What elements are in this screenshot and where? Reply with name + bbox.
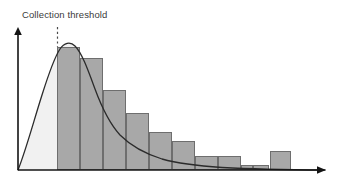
y-axis-arrowhead-icon	[14, 27, 22, 35]
bar	[104, 91, 126, 170]
chart-canvas	[0, 0, 340, 187]
x-axis-arrowhead-icon	[317, 166, 326, 174]
bar	[81, 59, 103, 170]
histogram-bars	[58, 48, 291, 170]
chart-figure: Collection threshold	[0, 0, 340, 187]
bar	[173, 142, 195, 170]
bar	[127, 114, 149, 170]
bar	[58, 48, 80, 170]
bar	[271, 152, 291, 170]
bar	[150, 133, 172, 170]
